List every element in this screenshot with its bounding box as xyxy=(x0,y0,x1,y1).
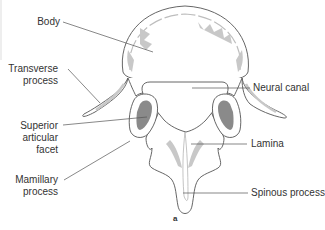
label-neural-canal: Neural canal xyxy=(253,82,309,94)
leader-transverse-process xyxy=(68,69,100,103)
panel-label-text: a xyxy=(173,214,177,223)
label-body-text: Body xyxy=(37,16,60,27)
label-body: Body xyxy=(22,16,60,28)
label-lamina: Lamina xyxy=(251,138,284,150)
label-superior-articular-facet: Superior articular facet xyxy=(2,120,58,156)
label-mamillary-process-line1: Mamillary xyxy=(2,174,58,186)
label-neural-canal-text: Neural canal xyxy=(253,82,309,93)
label-superior-articular-facet-line1: Superior xyxy=(2,120,58,132)
label-superior-articular-facet-line3: facet xyxy=(2,144,58,156)
label-lamina-text: Lamina xyxy=(251,138,284,149)
label-transverse-process-line1: Transverse xyxy=(2,63,58,75)
label-transverse-process: Transverse process xyxy=(2,63,58,87)
label-spinous-process: Spinous process xyxy=(251,187,325,199)
label-mamillary-process: Mamillary process xyxy=(2,174,58,198)
panel-label: a xyxy=(173,214,177,223)
label-transverse-process-line2: process xyxy=(2,75,58,87)
label-superior-articular-facet-line2: articular xyxy=(2,132,58,144)
label-mamillary-process-line2: process xyxy=(2,186,58,198)
leader-mamillary-process xyxy=(64,141,130,180)
label-spinous-process-text: Spinous process xyxy=(251,187,325,198)
vertebral-body xyxy=(122,6,248,80)
